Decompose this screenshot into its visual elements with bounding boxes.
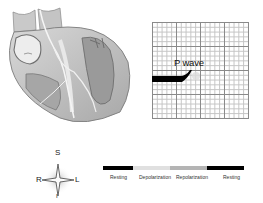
compass-rose-icon — [36, 158, 80, 202]
p-wave-label: P wave — [174, 57, 204, 68]
phase-label-depolarization: Depolarization — [139, 174, 171, 180]
compass-left-label: L — [75, 175, 79, 184]
phase-bar — [103, 166, 251, 170]
ecg-trace — [152, 70, 212, 90]
heart-illustration — [0, 0, 140, 135]
phase-segment-resting-2 — [207, 166, 244, 170]
phase-segment-repolarization — [170, 166, 207, 170]
phase-segment-depolarization — [133, 166, 170, 170]
phase-segment-resting-1 — [103, 166, 133, 170]
phase-label-repolarization: Repolarization — [176, 174, 208, 180]
phase-label-resting-2: Resting — [223, 174, 240, 180]
compass-superior-label: S — [55, 148, 60, 157]
compass-right-label: R — [36, 175, 42, 184]
phase-label-resting-1: Resting — [110, 174, 127, 180]
compass-inferior-label: I — [56, 193, 58, 199]
